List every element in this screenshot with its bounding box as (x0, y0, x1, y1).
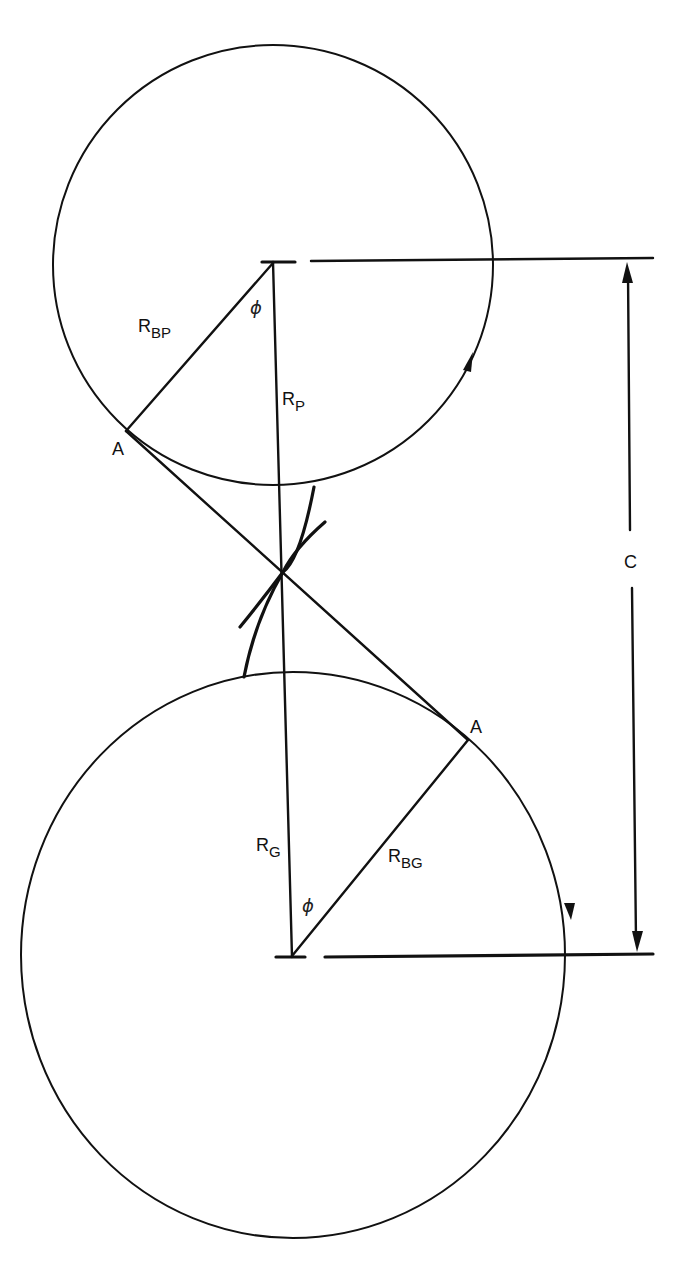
gear-base-radius-line (292, 740, 468, 956)
gear-mesh-diagram: RBP ϕ RP A A RG RBG ϕ C (0, 0, 675, 1261)
center-distance-line-upper (628, 272, 630, 530)
label-phi-bottom: ϕ (302, 895, 314, 916)
label-phi-top: ϕ (250, 297, 262, 318)
center-distance-line-lower (632, 588, 636, 940)
label-r-bg: RBG (388, 846, 423, 871)
label-a-top: A (112, 439, 124, 459)
gear-rotation-arrow-icon (564, 903, 575, 920)
label-r-p: RP (282, 389, 305, 414)
pinion-base-radius-line (126, 263, 273, 431)
label-r-g: RG (256, 835, 281, 860)
line-of-action (126, 431, 468, 740)
pinion-rotation-arrow-icon (463, 352, 473, 372)
gear-extension-line (325, 954, 653, 957)
label-center-distance: C (624, 552, 637, 572)
label-r-bp: RBP (138, 316, 171, 341)
dimension-arrow-up-icon (622, 262, 633, 283)
pinion-extension-line (311, 258, 653, 261)
dimension-arrow-down-icon (632, 931, 643, 952)
label-a-bottom: A (470, 717, 482, 737)
